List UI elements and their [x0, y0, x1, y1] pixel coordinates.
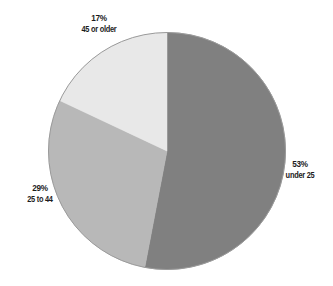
pie-label-under-25-percent: 53%: [273, 159, 326, 170]
pie-label-45-or-older-percent: 17%: [60, 13, 137, 24]
pie-label-25-to-44: 29% 25 to 44: [0, 183, 82, 204]
pie-slices: [49, 33, 286, 270]
pie-label-25-to-44-name: 25 to 44: [4, 195, 76, 205]
pie-chart-canvas: [0, 0, 333, 286]
pie-chart-figure: 17% 45 or older 29% 25 to 44 53% under 2…: [0, 0, 333, 286]
pie-label-25-to-44-percent: 29%: [4, 183, 76, 194]
pie-label-under-25: 53% under 25: [269, 159, 331, 180]
pie-label-45-or-older-name: 45 or older: [60, 25, 137, 35]
pie-label-under-25-name: under 25: [273, 171, 326, 181]
pie-label-45-or-older: 17% 45 or older: [54, 13, 144, 34]
